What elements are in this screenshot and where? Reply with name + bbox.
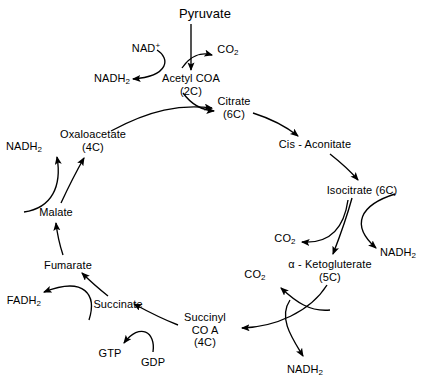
- arrow-citrate-to-cis-aconitate: [253, 113, 298, 136]
- node-gtp: GTP: [99, 347, 122, 360]
- node-alpha-ketoglutarate: α - Ketogluterate (5C): [288, 258, 371, 283]
- arrow-fumarate-to-malate: [56, 223, 63, 255]
- arrow-nad-to-nadh2: [133, 50, 165, 79]
- arrow-succinyl-branch-to-nadh2: [285, 300, 303, 356]
- arrow-oxaloacetate-to-citrate: [111, 107, 212, 131]
- node-oxaloacetate: Oxaloacetate (4C): [60, 128, 126, 153]
- node-nadh2-left: NADH2: [6, 140, 42, 157]
- node-malate: Malate: [39, 206, 73, 219]
- arrow-isocitrate-to-nadh2: [361, 194, 395, 248]
- node-fumarate: Fumarate: [44, 259, 92, 272]
- node-nadh2-bottom: NADH2: [287, 363, 323, 380]
- node-acetyl-coa: Acetyl COA (2C): [162, 72, 220, 97]
- arrow-gdp-to-gtp: [124, 331, 153, 352]
- node-pyruvate: Pyruvate: [179, 8, 231, 21]
- node-nadh2-right: NADH2: [380, 246, 416, 263]
- node-succinyl-coa: Succinyl CO A (4C): [184, 311, 226, 349]
- arrow-malate-to-oxaloacetate: [61, 158, 84, 203]
- node-co2-bottom: CO2: [244, 268, 265, 285]
- arrow-isocitrate-to-co2: [302, 200, 348, 242]
- node-nadh2-top: NADH2: [94, 72, 130, 89]
- node-citrate: Citrate (6C): [217, 95, 250, 120]
- node-cis-aconitate: Cis - Aconitate: [279, 138, 351, 151]
- node-co2-right: CO2: [274, 232, 295, 249]
- node-gdp: GDP: [141, 356, 165, 369]
- node-isocitrate: Isocitrate (6C): [327, 184, 398, 197]
- arrow-cis-aconitate-to-isocitrate: [330, 154, 358, 180]
- arrow-isocitrate-to-alpha-ketoglutarate: [333, 198, 352, 254]
- krebs-cycle-diagram: Pyruvate NAD+ CO2 NADH2 Acetyl COA (2C) …: [0, 0, 433, 384]
- node-nad-plus: NAD+: [132, 40, 160, 54]
- arrow-malate-to-nadh2: [24, 157, 58, 212]
- arrow-acetyl-coa-to-co2: [182, 54, 212, 68]
- arrow-fumarate-to-fadh2: [44, 286, 91, 320]
- node-co2-top: CO2: [217, 43, 238, 60]
- node-fadh2: FADH2: [7, 294, 41, 311]
- arrow-succinate-to-fumarate: [82, 273, 108, 296]
- node-succinate: Succinate: [93, 298, 142, 311]
